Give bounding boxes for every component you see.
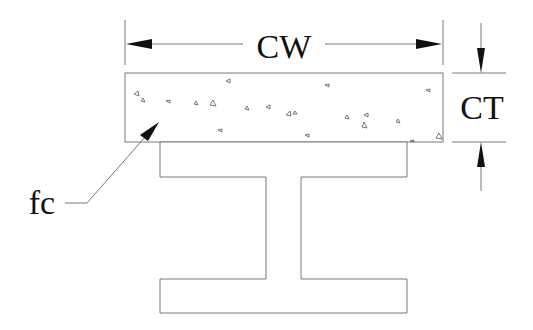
ct-label: CT: [460, 89, 504, 126]
fc-leader-line: [65, 136, 146, 203]
slab-outline: [125, 73, 443, 142]
cw-dimension: CW: [125, 20, 443, 65]
ct-dimension: CT: [452, 23, 506, 191]
steel-i-beam: [160, 142, 407, 313]
concrete-slab: [125, 73, 443, 142]
arrow-down-icon: [477, 48, 485, 73]
arrow-left-icon: [126, 39, 152, 49]
fc-label: fc: [29, 184, 55, 221]
cw-label: CW: [257, 28, 313, 65]
arrow-up-icon: [477, 142, 485, 167]
arrow-right-icon: [416, 39, 442, 49]
composite-beam-diagram: CW: [0, 0, 533, 330]
